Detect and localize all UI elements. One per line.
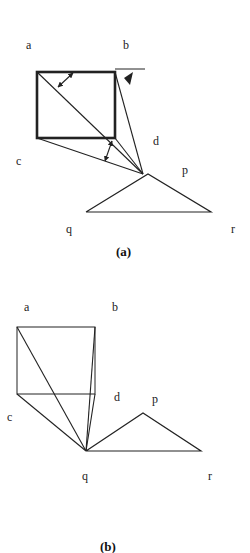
figure-b: a b c d p q r (b) bbox=[7, 300, 212, 553]
label-d: d bbox=[114, 390, 120, 404]
square-abcd-a bbox=[37, 72, 115, 138]
line-c-p bbox=[37, 138, 143, 174]
double-arrow-bottom bbox=[105, 141, 112, 161]
arrowhead-b bbox=[124, 72, 133, 85]
triangle-pqr-b bbox=[86, 413, 201, 451]
label-q: q bbox=[82, 469, 88, 483]
double-arrow-top bbox=[58, 73, 73, 87]
square-abcd-b bbox=[17, 327, 95, 394]
line-a-q bbox=[17, 327, 86, 451]
label-c: c bbox=[7, 410, 12, 424]
label-q: q bbox=[66, 222, 72, 236]
line-b-p bbox=[115, 72, 143, 174]
label-a: a bbox=[26, 38, 32, 52]
caption-a: (a) bbox=[116, 244, 131, 259]
line-c-q bbox=[17, 394, 86, 451]
label-c: c bbox=[16, 154, 21, 168]
line-b-q bbox=[86, 327, 95, 451]
label-a: a bbox=[24, 300, 30, 314]
line-a-p bbox=[37, 72, 143, 174]
label-r: r bbox=[231, 222, 235, 236]
label-p: p bbox=[152, 392, 158, 406]
line-d-p bbox=[115, 138, 143, 174]
label-r: r bbox=[208, 469, 212, 483]
label-d: d bbox=[153, 134, 159, 148]
label-p: p bbox=[182, 163, 188, 177]
line-d-q bbox=[86, 394, 95, 451]
triangle-pqr-a bbox=[86, 174, 211, 212]
label-b: b bbox=[112, 300, 118, 314]
diagram-canvas: a b c d p q r (a) a b c d p q r (b) bbox=[0, 0, 250, 553]
figure-a: a b c d p q r (a) bbox=[16, 38, 235, 259]
caption-b: (b) bbox=[100, 539, 116, 553]
label-b: b bbox=[123, 38, 129, 52]
